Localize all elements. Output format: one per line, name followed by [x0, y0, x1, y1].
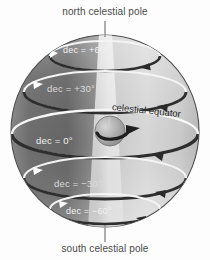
- declination-label-minus60: dec = −60°: [66, 206, 112, 216]
- declination-label-zero: dec = 0°: [36, 135, 73, 146]
- north-celestial-pole-label: north celestial pole: [0, 6, 210, 17]
- celestial-sphere-figure: north celestial pole south celestial pol…: [0, 0, 210, 260]
- declination-label-plus60: dec = +60°: [63, 45, 109, 55]
- celestial-sphere-diagram: [0, 0, 210, 260]
- south-celestial-pole-label: south celestial pole: [0, 243, 210, 254]
- declination-label-minus30: dec = −30°: [54, 178, 102, 189]
- declination-label-plus30: dec = +30°: [47, 83, 95, 94]
